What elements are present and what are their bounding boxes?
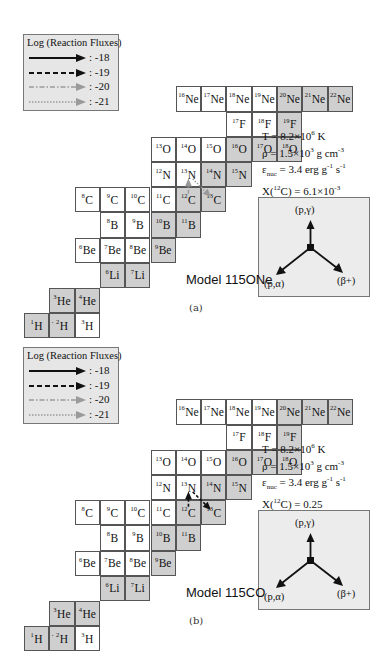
- nuclide-cell-B9: 9B: [125, 212, 150, 237]
- element-symbol: Be: [159, 244, 172, 256]
- element-symbol: Be: [83, 244, 96, 256]
- nuclide-cell-C11: 11C: [151, 187, 176, 212]
- element-symbol: He: [57, 295, 70, 307]
- element-symbol: He: [82, 608, 95, 620]
- nuclide-cell-Ne19: 19Ne: [252, 86, 277, 111]
- legend-title: Log (Reaction Fluxes): [27, 350, 121, 361]
- element-symbol: Ne: [261, 93, 274, 105]
- element-symbol: H: [34, 633, 42, 645]
- element-symbol: N: [213, 169, 221, 181]
- mass-number: 10: [156, 217, 163, 224]
- nuclide-cell-O16: 16O: [226, 137, 251, 162]
- legend-value: : -21: [89, 95, 109, 107]
- model-label: Model 115ONe: [186, 272, 272, 287]
- element-symbol: Ne: [286, 406, 299, 418]
- mass-number: 3: [81, 631, 84, 638]
- label-beta-plus: (β+): [337, 275, 355, 286]
- element-symbol: C: [85, 507, 93, 519]
- element-symbol: C: [163, 194, 171, 206]
- mass-number: 6: [79, 556, 82, 563]
- legend-entry: : -20: [28, 394, 116, 406]
- mass-number: 16: [231, 142, 238, 149]
- nuclide-cell-O14: 14O: [176, 137, 201, 162]
- legend-entry: : -20: [28, 81, 116, 93]
- element-symbol: N: [162, 169, 170, 181]
- nuclide-cell-Li6: 6Li: [100, 263, 125, 288]
- element-symbol: H: [85, 633, 93, 645]
- nuclide-cell-Li7: 7Li: [125, 263, 150, 288]
- nuclide-cell-Be6: 6Be: [75, 551, 100, 576]
- density: ρ = 1.5×103 g cm-3: [262, 456, 346, 473]
- legend: Log (Reaction Fluxes): -18: -19: -20: -2…: [23, 34, 119, 111]
- element-symbol: N: [238, 169, 246, 181]
- nuclide-cell-Be9: 9Be: [151, 238, 176, 263]
- element-symbol: F: [239, 431, 245, 443]
- label-p-gamma: (p,γ): [295, 204, 315, 215]
- element-symbol: C: [213, 507, 221, 519]
- nuclide-cell-Be7: 7Be: [100, 238, 125, 263]
- nuclide-cell-C10: 10C: [125, 500, 150, 525]
- mass-number: 10: [131, 192, 138, 199]
- nuclide-cell-C8: 8C: [75, 500, 100, 525]
- element-symbol: N: [162, 482, 170, 494]
- mass-number: 17: [204, 404, 211, 411]
- nuclide-cell-O16: 16O: [226, 450, 251, 475]
- legend-entry: : -21: [28, 409, 116, 421]
- nuclide-cell-C12: 12C: [176, 500, 201, 525]
- nuclide-cell-He4: 4He: [75, 601, 100, 626]
- nuclide-cell-B8: 8B: [100, 212, 125, 237]
- element-symbol: He: [82, 295, 95, 307]
- mass-number: 8: [82, 505, 85, 512]
- element-symbol: O: [188, 143, 196, 155]
- element-symbol: He: [57, 608, 70, 620]
- mass-number: 20: [279, 91, 286, 98]
- nuclide-cell-C12: 12C: [176, 187, 201, 212]
- mass-number: 12: [181, 192, 188, 199]
- element-symbol: B: [136, 219, 144, 231]
- element-symbol: B: [111, 532, 119, 544]
- nuclide-cell-H3: 3H: [75, 626, 100, 651]
- mass-number: 14: [206, 480, 213, 487]
- element-symbol: Be: [133, 557, 146, 569]
- mass-number: 8: [82, 192, 85, 199]
- element-symbol: Ne: [185, 93, 198, 105]
- element-symbol: N: [188, 482, 196, 494]
- legend: Log (Reaction Fluxes): -18: -19: -20: -2…: [23, 347, 119, 424]
- nuclide-cell-Li7: 7Li: [125, 576, 150, 601]
- nuclide-cell-Ne22: 22Ne: [328, 86, 353, 111]
- mass-number: 8: [107, 217, 110, 224]
- legend-entry: : -18: [28, 365, 116, 377]
- nuclide-cell-H2: 2H: [49, 626, 74, 651]
- element-symbol: Ne: [236, 93, 249, 105]
- element-symbol: O: [238, 143, 246, 155]
- mass-number: 14: [181, 455, 188, 462]
- mass-number: 6: [106, 268, 109, 275]
- nuclide-cell-N14: 14N: [201, 162, 226, 187]
- mass-number: 22: [330, 91, 337, 98]
- label-p-gamma: (p,γ): [295, 517, 315, 528]
- nuclide-cell-Be8: 8Be: [125, 238, 150, 263]
- element-symbol: C: [111, 194, 119, 206]
- mass-number: 19: [283, 117, 290, 124]
- nuclide-cell-B10: 10B: [151, 212, 176, 237]
- nuclide-cell-C9: 9C: [100, 187, 125, 212]
- nuclide-cell-He3: 3He: [49, 288, 74, 313]
- nuclide-cell-O15: 15O: [201, 137, 226, 162]
- element-symbol: Ne: [286, 93, 299, 105]
- nuclide-cell-Ne17: 17Ne: [201, 86, 226, 111]
- density: ρ = 1.5×103 g cm-3: [262, 143, 346, 160]
- mass-number: 12: [155, 167, 162, 174]
- mass-number: 8: [107, 530, 110, 537]
- temperature: T = 8.2×106 K: [262, 439, 346, 456]
- element-symbol: Be: [133, 244, 146, 256]
- mass-number: 11: [156, 192, 162, 199]
- mass-number: 22: [330, 404, 337, 411]
- nuclide-cell-F17: 17F: [226, 425, 251, 450]
- subfigure-caption: (a): [189, 302, 203, 313]
- element-symbol: Be: [159, 557, 172, 569]
- nuclide-cell-B10: 10B: [151, 525, 176, 550]
- mass-number: 19: [254, 91, 261, 98]
- element-symbol: Ne: [211, 406, 224, 418]
- element-symbol: Li: [135, 582, 145, 594]
- mass-number: 9: [132, 530, 135, 537]
